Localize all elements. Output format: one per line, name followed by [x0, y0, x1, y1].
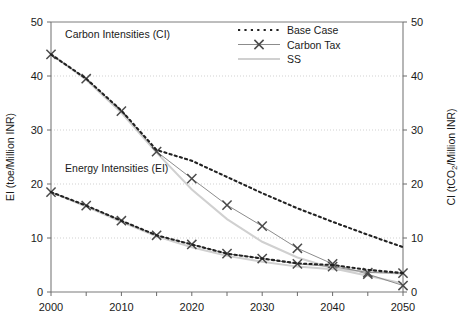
- y-tick-label-left-20: 20: [31, 178, 43, 190]
- y-axis-title-left: EI (toe/Million INR): [4, 113, 16, 201]
- legend-label-base-case: Base Case: [287, 24, 339, 36]
- x-tick-label-2000: 2000: [39, 301, 63, 313]
- y-tick-label-left-0: 0: [37, 286, 43, 298]
- dual-axis-line-chart: 0102030405001020304050200020102020203020…: [0, 0, 470, 329]
- x-tick-label-2040: 2040: [320, 301, 344, 313]
- y-tick-label-right-30: 30: [411, 124, 423, 136]
- y-tick-label-right-0: 0: [411, 286, 417, 298]
- x-tick-label-2030: 2030: [250, 301, 274, 313]
- legend-label-ss: SS: [287, 53, 301, 65]
- y-tick-label-right-50: 50: [411, 16, 423, 28]
- y-tick-label-right-20: 20: [411, 178, 423, 190]
- annotation-ei: Energy Intensities (EI): [65, 162, 168, 174]
- y-tick-label-left-40: 40: [31, 70, 43, 82]
- x-tick-label-2010: 2010: [109, 301, 133, 313]
- annotation-ci: Carbon Intensities (CI): [65, 28, 170, 40]
- legend-label-carbon-tax: Carbon Tax: [287, 39, 341, 51]
- x-tick-label-2020: 2020: [180, 301, 204, 313]
- y-tick-label-left-10: 10: [31, 232, 43, 244]
- chart-container: 0102030405001020304050200020102020203020…: [0, 0, 470, 329]
- y-axis-title-right: CI (tCO2/Million INR): [445, 108, 459, 205]
- y-tick-label-left-50: 50: [31, 16, 43, 28]
- y-tick-label-left-30: 30: [31, 124, 43, 136]
- y-tick-label-right-10: 10: [411, 232, 423, 244]
- y-tick-label-right-40: 40: [411, 70, 423, 82]
- x-tick-label-2050: 2050: [391, 301, 415, 313]
